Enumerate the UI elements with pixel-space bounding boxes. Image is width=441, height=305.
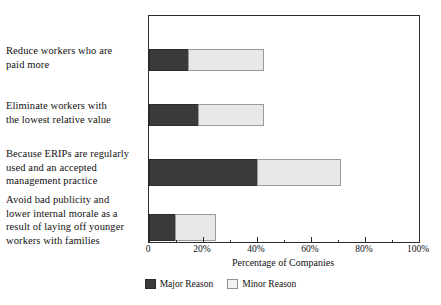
x-tick-major — [311, 237, 312, 243]
category-label-1-line-1: the lowest relative value — [6, 113, 146, 127]
bar-segment-minor — [188, 49, 264, 71]
x-tick-label: 80% — [355, 244, 372, 254]
category-label-0-line-0: Reduce workers who are — [6, 44, 146, 58]
x-tick-major — [419, 237, 420, 243]
bar-segment-major — [149, 214, 175, 241]
category-label-2: Because ERIPs are regularly used and an … — [6, 147, 146, 188]
bar-segment-minor — [198, 104, 264, 126]
chart-legend: Major Reason Minor Reason — [0, 279, 441, 289]
legend-label-major: Major Reason — [160, 279, 214, 289]
x-tick-minor — [176, 240, 177, 243]
category-label-3-line-2: result of laying off younger — [6, 220, 146, 234]
x-tick-label: 20% — [193, 244, 210, 254]
bar-segment-major — [149, 159, 257, 186]
legend-item-major: Major Reason — [145, 279, 214, 289]
x-tick-label: 40% — [247, 244, 264, 254]
bar-row — [149, 49, 264, 71]
category-label-1-line-0: Eliminate workers with — [6, 99, 146, 113]
legend-item-minor: Minor Reason — [227, 279, 296, 289]
plot-area — [148, 15, 420, 243]
category-label-3: Avoid bad publicity and lower internal m… — [6, 193, 146, 247]
x-tick-major — [365, 237, 366, 243]
bar-row — [149, 104, 264, 126]
legend-swatch-minor-icon — [227, 279, 238, 289]
legend-swatch-major-icon — [145, 279, 156, 289]
category-label-2-line-0: Because ERIPs are regularly — [6, 147, 146, 161]
category-label-0-line-1: paid more — [6, 58, 146, 72]
x-tick-minor — [338, 240, 339, 243]
x-tick-major — [149, 237, 150, 243]
x-tick-label: 0 — [146, 244, 151, 254]
x-tick-major — [203, 237, 204, 243]
bar-segment-major — [149, 49, 188, 71]
category-label-2-line-1: used and an accepted — [6, 161, 146, 175]
x-tick-minor — [230, 240, 231, 243]
stacked-bar-chart: Reduce workers who are paid more Elimina… — [0, 0, 441, 305]
bar-segment-major — [149, 104, 198, 126]
category-label-3-line-0: Avoid bad publicity and — [6, 193, 146, 207]
category-label-3-line-3: workers with families — [6, 234, 146, 248]
x-axis-title: Percentage of Companies — [148, 257, 418, 268]
category-label-0: Reduce workers who are paid more — [6, 44, 146, 71]
x-tick-minor — [392, 240, 393, 243]
category-label-3-line-1: lower internal morale as a — [6, 207, 146, 221]
bar-row — [149, 159, 341, 186]
category-label-2-line-2: management practice — [6, 174, 146, 188]
x-tick-label: 60% — [301, 244, 318, 254]
bar-segment-minor — [257, 159, 341, 186]
x-tick-major — [257, 237, 258, 243]
bar-segment-minor — [175, 214, 217, 241]
x-tick-label: 100% — [407, 244, 429, 254]
category-label-1: Eliminate workers with the lowest relati… — [6, 99, 146, 126]
bar-row — [149, 214, 216, 241]
x-tick-minor — [284, 240, 285, 243]
legend-label-minor: Minor Reason — [242, 279, 296, 289]
